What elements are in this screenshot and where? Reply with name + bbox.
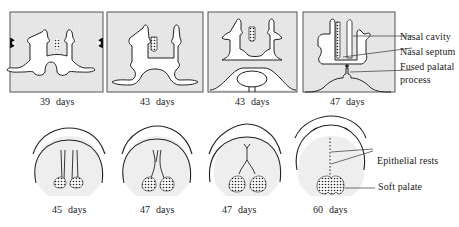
nasal-septum-shape — [151, 37, 157, 51]
tongue-shape — [237, 71, 267, 87]
panel-47-days-bottom-a — [122, 126, 192, 196]
panel-43-days-b — [208, 12, 297, 92]
label-47-days-bottom-b: 47days — [222, 204, 256, 215]
palate-development-diagram — [0, 0, 459, 227]
label-43-days-b: 43days — [235, 96, 269, 107]
nasal-septum-47 — [336, 22, 340, 58]
panel-43-days-a — [107, 12, 203, 92]
label-47-days-bottom-a: 47days — [140, 204, 174, 215]
panel-39-days — [7, 12, 103, 92]
label-43-days-a: 43days — [140, 96, 174, 107]
label-epithelial-rests: Epithelial rests — [377, 155, 438, 166]
label-60-days: 60days — [313, 204, 347, 215]
panel-47-days-bottom-b — [209, 124, 281, 196]
label-39-days: 39days — [40, 96, 74, 107]
label-47-days: 47days — [330, 96, 364, 107]
soft-palate-shape — [317, 176, 344, 194]
label-process: process — [400, 74, 431, 85]
panel-45-days — [33, 128, 105, 196]
panel-47-days — [303, 12, 412, 92]
label-nasal-cavity: Nasal cavity — [400, 31, 451, 42]
panel-60-days — [295, 116, 375, 196]
septum-primordium — [54, 38, 61, 50]
label-nasal-septum: Nasal septum — [400, 46, 455, 57]
label-fused-palatal: Fused palatal — [400, 61, 454, 72]
label-45-days: 45days — [52, 204, 86, 215]
label-soft-palate: Soft palate — [378, 181, 422, 192]
